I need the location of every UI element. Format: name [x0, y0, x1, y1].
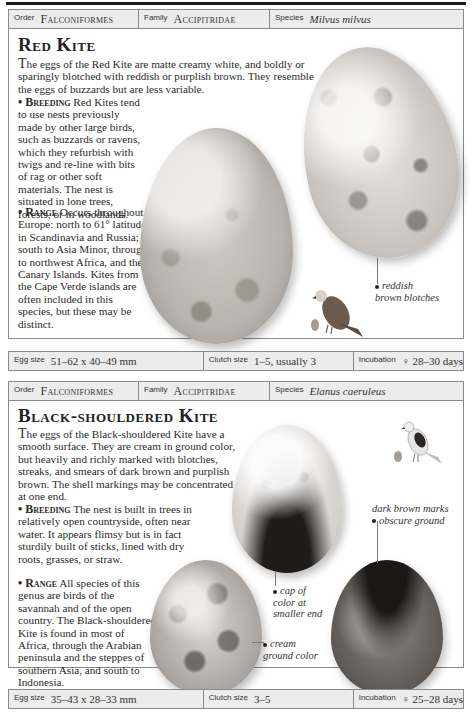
order-cell: Order Falconiformes: [9, 10, 139, 28]
dropcap: T: [18, 56, 27, 71]
red-kite-egg-swatch: [311, 319, 319, 331]
dropcap: T: [18, 426, 27, 441]
caption-leader-line: [377, 521, 378, 563]
incubation-value: ♀ 25–28 days: [402, 693, 463, 705]
breeding-label: Breeding: [25, 95, 70, 109]
clutch-size-label: Clutch size: [209, 355, 248, 364]
caption-dot: [263, 643, 267, 647]
clutch-size-value: 3–5: [254, 693, 271, 705]
red-kite-stats-bar: Egg size 51–62 x 40–49 mm Clutch size 1–…: [8, 351, 464, 371]
caption-dot: [375, 285, 379, 289]
black-shouldered-kite-bird-illustration: [398, 420, 444, 470]
range-label: Range: [25, 576, 57, 590]
red-kite-title: Red Kite: [18, 34, 96, 56]
black-shouldered-kite-stats-bar: Egg size 35–43 x 28–33 mm Clutch size 3–…: [8, 689, 464, 709]
incubation-label: Incubation: [359, 693, 396, 702]
red-kite-taxonomy-bar: Order Falconiformes Family Accipitridae …: [8, 9, 464, 29]
range-text: All species of this genus are birds of t…: [18, 577, 156, 688]
top-rule: [6, 2, 466, 5]
range-label: Range: [25, 205, 57, 219]
red-kite-intro: The eggs of the Red Kite are matte cream…: [18, 58, 318, 95]
egg-size-cell: Egg size 51–62 x 40–49 mm: [9, 352, 204, 370]
red-kite-caption-blotches: reddish brown blotches: [375, 280, 439, 303]
incubation-cell: Incubation ♀ 25–28 days: [354, 690, 463, 708]
incubation-value: ♀ 28–30 days: [402, 355, 463, 367]
family-label: Family: [144, 385, 168, 394]
egg-size-label: Egg size: [14, 693, 45, 702]
clutch-size-cell: Clutch size 1–5, usually 3: [204, 352, 354, 370]
breeding-label: Breeding: [25, 502, 70, 516]
black-shouldered-kite-egg-swatch: [394, 451, 402, 462]
species-value: Milvus milvus: [309, 13, 370, 25]
caption-dot: [372, 519, 376, 523]
egg-size-value: 51–62 x 40–49 mm: [51, 355, 137, 367]
clutch-size-value: 1–5, usually 3: [254, 355, 316, 367]
family-label: Family: [144, 13, 168, 22]
family-value: Accipitridae: [174, 384, 236, 399]
black-shouldered-kite-range: • Range All species of this genus are bi…: [18, 577, 158, 689]
black-shouldered-kite-caption-cream: cream ground color: [263, 638, 318, 661]
egg-size-value: 35–43 x 28–33 mm: [51, 693, 137, 705]
species-label: Species: [275, 13, 303, 22]
order-label: Order: [14, 13, 34, 22]
species-cell: Species Elanus caeruleus: [270, 382, 463, 400]
species-label: Species: [275, 385, 303, 394]
range-text: Occurs throughout Europe: north to 61° l…: [18, 206, 147, 330]
intro-text: he eggs of the Black-shouldered Kite hav…: [18, 428, 235, 502]
red-kite-breeding: • Breeding Red Kites tend to use nests p…: [18, 96, 146, 220]
black-shouldered-kite-title: Black-shouldered Kite: [18, 405, 218, 427]
incubation-label: Incubation: [359, 355, 396, 364]
order-value: Falconiformes: [40, 384, 113, 399]
egg-size-label: Egg size: [14, 355, 45, 364]
intro-text: he eggs of the Red Kite are matte creamy…: [18, 58, 314, 95]
order-value: Falconiformes: [40, 12, 113, 27]
caption-leader-line: [275, 572, 276, 586]
red-kite-bird-illustration: [308, 285, 368, 340]
caption-dot: [273, 590, 277, 594]
family-cell: Family Accipitridae: [139, 382, 270, 400]
incubation-cell: Incubation ♀ 28–30 days: [354, 352, 463, 370]
black-shouldered-kite-taxonomy-bar: Order Falconiformes Family Accipitridae …: [8, 381, 464, 401]
egg-size-cell: Egg size 35–43 x 28–33 mm: [9, 690, 204, 708]
red-kite-range: • Range Occurs throughout Europe: north …: [18, 206, 148, 330]
family-value: Accipitridae: [174, 12, 236, 27]
breeding-text: Red Kites tend to use nests previously m…: [18, 96, 140, 220]
clutch-size-label: Clutch size: [209, 693, 248, 702]
order-cell: Order Falconiformes: [9, 382, 139, 400]
black-shouldered-kite-breeding: • Breeding The nest is built in trees in…: [18, 503, 198, 565]
family-cell: Family Accipitridae: [139, 10, 270, 28]
clutch-size-cell: Clutch size 3–5: [204, 690, 354, 708]
black-shouldered-kite-caption-cap: cap of color at smaller end: [273, 585, 322, 620]
black-shouldered-kite-caption-dark-marks: dark brown marks obscure ground: [372, 503, 449, 526]
caption-leader-line: [252, 642, 264, 643]
species-cell: Species Milvus milvus: [270, 10, 463, 28]
species-value: Elanus caeruleus: [309, 385, 385, 397]
black-shouldered-kite-intro: The eggs of the Black-shouldered Kite ha…: [18, 428, 238, 502]
order-label: Order: [14, 385, 34, 394]
